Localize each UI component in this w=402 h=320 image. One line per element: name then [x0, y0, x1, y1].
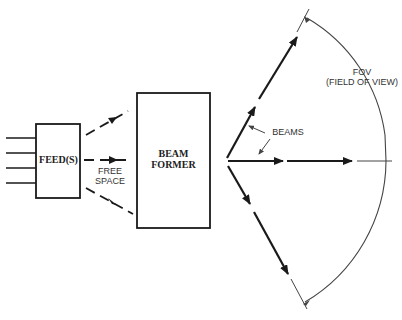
- free-space-label: FREE SPACE: [90, 167, 130, 187]
- beam-former-line2: FORMER: [137, 159, 210, 170]
- beams-label: BEAMS: [266, 128, 310, 138]
- free-space-arrowheads: [108, 117, 118, 205]
- beam-former-line1: BEAM: [137, 148, 210, 159]
- fov-line2: (FIELD OF VIEW): [322, 78, 402, 88]
- beam-former-label: BEAM FORMER: [137, 148, 210, 170]
- fov-boundaries: [291, 9, 392, 309]
- input-lines: [6, 138, 36, 183]
- feed-label: FEED(S): [36, 154, 81, 165]
- fov-label: FOV (FIELD OF VIEW): [322, 68, 402, 88]
- free-space-line2: SPACE: [90, 177, 130, 187]
